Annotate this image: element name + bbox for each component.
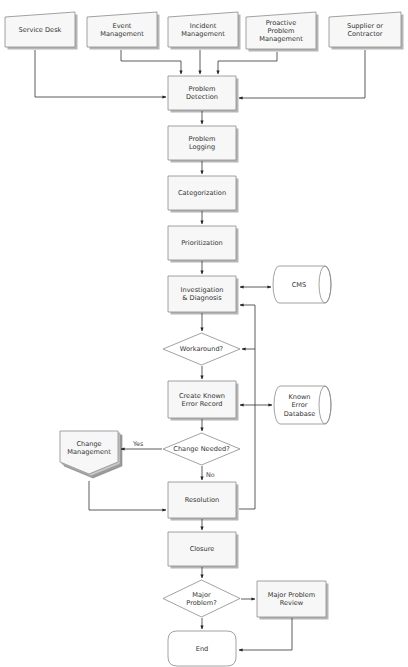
node-major-problem: MajorProblem? xyxy=(163,580,240,617)
node-label: Create KnownError Record xyxy=(179,392,225,408)
node-prioritization: Prioritization xyxy=(168,226,236,260)
connector-major-problem-review-to-end xyxy=(239,618,292,650)
node-label: ProblemLogging xyxy=(189,135,216,151)
node-label: Workaround? xyxy=(180,345,224,353)
node-event-management: EventManagement xyxy=(87,12,157,47)
node-label: ProblemDetection xyxy=(186,85,218,101)
node-label: End xyxy=(196,645,209,653)
node-label: Service Desk xyxy=(19,26,62,34)
node-label: Closure xyxy=(190,545,215,553)
node-cms: CMS xyxy=(273,266,331,303)
node-label: Change Needed? xyxy=(173,445,230,453)
node-workaround: Workaround? xyxy=(163,333,240,365)
flowchart-canvas: Service DeskEventManagementIncidentManag… xyxy=(0,0,408,667)
node-label: Resolution xyxy=(185,496,219,504)
edge-label-no: No xyxy=(206,471,215,479)
node-proactive-problem-management: ProactiveProblemManagement xyxy=(246,12,316,49)
node-known-error-database: KnownErrorDatabase xyxy=(274,386,331,424)
connector-supplier-or-contractor-to-problem-detection xyxy=(239,50,365,98)
node-service-desk: Service Desk xyxy=(5,12,75,47)
node-create-known-error-record: Create KnownError Record xyxy=(168,381,236,418)
node-label: Investigation& Diagnosis xyxy=(181,286,224,302)
connector-service-desk-to-problem-detection xyxy=(35,50,166,97)
connector-resolution-to-investigation-diagnosis xyxy=(239,305,255,509)
connector-event-management-to-problem-detection xyxy=(121,50,181,74)
node-label: Prioritization xyxy=(181,239,223,247)
node-supplier-or-contractor: Supplier orContractor xyxy=(329,12,401,47)
node-problem-logging: ProblemLogging xyxy=(168,126,236,160)
node-change-needed: Change Needed? xyxy=(163,433,240,465)
node-closure: Closure xyxy=(168,532,236,566)
edge-label-yes: Yes xyxy=(132,440,144,448)
node-label: CMS xyxy=(292,281,306,289)
node-label: Categorization xyxy=(178,189,226,197)
connector-change-management-to-resolution xyxy=(89,481,166,510)
node-major-problem-review: Major ProblemReview xyxy=(257,581,326,617)
node-incident-management: IncidentManagement xyxy=(168,12,238,47)
node-resolution: Resolution xyxy=(168,482,236,518)
node-end: End xyxy=(168,631,236,666)
node-label: Supplier orContractor xyxy=(347,22,383,38)
connector-proactive-problem-management-to-problem-detection xyxy=(218,52,277,74)
node-investigation-diagnosis: Investigation& Diagnosis xyxy=(168,276,236,312)
node-categorization: Categorization xyxy=(168,176,236,210)
node-problem-detection: ProblemDetection xyxy=(168,76,236,110)
